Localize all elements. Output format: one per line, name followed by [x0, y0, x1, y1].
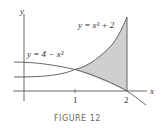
x-tick-label-1: 1	[73, 95, 78, 105]
y-axis-label: y	[19, 6, 24, 16]
quadratic-curve-label: y = 4 − x²	[26, 49, 64, 59]
x-tick-label-2: 2	[124, 95, 129, 105]
cubic-curve-label: y = x³ + 2	[77, 20, 115, 30]
figure: y x 1 2 y = x³ + 2 y = 4 − x² FIGURE 12	[0, 0, 163, 128]
figure-caption: FIGURE 12	[54, 114, 101, 123]
x-axis-label: x	[149, 86, 154, 96]
